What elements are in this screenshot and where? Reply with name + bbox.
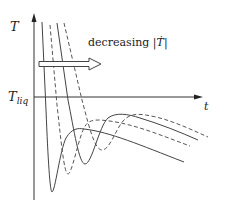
t-liq-label-subscript: liq <box>17 96 29 106</box>
x-axis-arrowhead-icon <box>194 95 203 100</box>
y-axis-arrowhead-icon <box>32 13 37 22</box>
temperature-time-diagram: T t Tliq decreasing |Ṫ| <box>0 0 228 212</box>
t-liq-line <box>34 95 203 100</box>
annotation-close: | <box>164 36 168 50</box>
annotation-label: decreasing |Ṫ| <box>88 35 168 50</box>
direction-arrow-icon <box>39 58 101 70</box>
t-liq-label: Tliq <box>8 89 28 106</box>
x-axis-label: t <box>204 100 209 113</box>
y-axis <box>32 13 37 200</box>
diagram-canvas: T t Tliq decreasing |Ṫ| <box>0 0 228 212</box>
y-axis-label: T <box>10 19 20 34</box>
annotation-text: decreasing | <box>88 36 157 50</box>
